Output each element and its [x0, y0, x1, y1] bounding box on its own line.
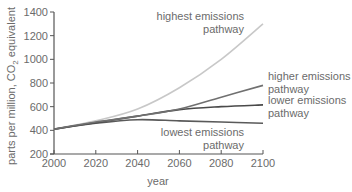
y-tick-label: 600 — [30, 101, 48, 113]
series-label-higher: higher emissionspathway — [268, 70, 351, 95]
y-tick-label: 1400 — [24, 6, 48, 18]
y-tick-label: 1000 — [24, 53, 48, 65]
x-tick-label: 2040 — [125, 157, 149, 169]
y-tick-label: 400 — [30, 124, 48, 136]
y-tick-label: 800 — [30, 77, 48, 89]
y-tick-label: 1200 — [24, 30, 48, 42]
x-tick-label: 2000 — [42, 157, 66, 169]
x-tick-label: 2100 — [251, 157, 275, 169]
series-label-lower: lower emissionspathway — [268, 94, 347, 119]
series-label-highest: highest emissionspathway — [157, 10, 245, 35]
series-label-lowest: lowest emissionspathway — [161, 126, 245, 151]
emissions-pathway-chart: 2004006008001000120014002000202020402060… — [0, 0, 352, 192]
x-tick-label: 2060 — [167, 157, 191, 169]
x-axis-title: year — [147, 175, 169, 187]
series-lines — [54, 24, 263, 129]
x-tick-label: 2020 — [84, 157, 108, 169]
y-axis-title: parts per million, CO2 equivalent — [5, 7, 20, 165]
x-tick-label: 2080 — [209, 157, 233, 169]
